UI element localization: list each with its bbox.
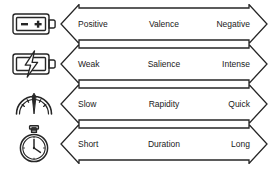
battery-polarity-icon — [12, 11, 56, 37]
dimension-arrow: Slow Rapidity Quick — [60, 84, 268, 124]
affect-dimensions-diagram: Positive Valence Negative Weak — [0, 0, 270, 175]
dimension-arrow: Positive Valence Negative — [60, 4, 268, 44]
dimension-row: Short Duration Long — [0, 124, 270, 164]
row-icon-cell — [10, 84, 58, 124]
battery-lightning-icon — [12, 50, 56, 78]
dimension-row: Weak Salience Intense — [0, 44, 270, 84]
stopwatch-icon — [16, 125, 52, 163]
speedometer-gauge-icon — [14, 91, 54, 117]
dimension-row: Positive Valence Negative — [0, 4, 270, 44]
row-icon-cell — [10, 44, 58, 84]
row-icon-cell — [10, 4, 58, 44]
dimension-arrow: Weak Salience Intense — [60, 44, 268, 84]
row-icon-cell — [10, 124, 58, 164]
dimension-row: Slow Rapidity Quick — [0, 84, 270, 124]
dimension-arrow: Short Duration Long — [60, 124, 268, 164]
